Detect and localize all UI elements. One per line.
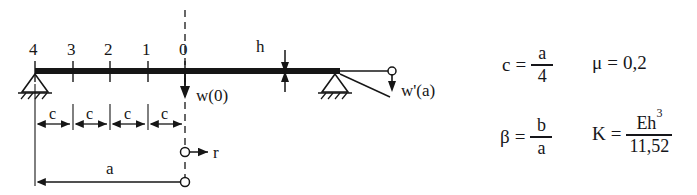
fraction-numerator-a: a [535,44,549,63]
equation-equals-K: = [611,123,622,145]
thickness-label-h: h [256,38,265,55]
fraction-denominator-4: 4 [535,67,550,86]
node-label-0: 0 [179,41,188,58]
equation-equals-beta: = [515,126,526,148]
r-axis-arrow [181,148,209,157]
numerator-exponent-3: 3 [656,106,662,120]
equation-lhs-mu: μ [592,52,602,74]
fraction-Eh3-over-1152: Eh3 11,52 [626,112,672,156]
slope-label-wa: w'(a) [401,82,435,99]
fraction-numerator-b: b [534,116,549,135]
equation-lhs-K: K [592,123,606,145]
equation-plate-stiffness: K = Eh3 11,52 [592,112,672,156]
equation-beta-ratio: β = b a [500,116,552,158]
node-label-4: 4 [29,41,38,58]
fraction-b-over-a: b a [530,116,552,158]
equation-equals-c: = [515,54,526,76]
equation-poisson-ratio: μ = 0,2 [592,52,647,74]
fraction-denominator-a: a [534,139,548,158]
radial-axis-label-r: r [213,144,219,161]
segment-label-c-3: c [124,106,131,122]
equation-segment-length: c = a 4 [502,44,553,86]
segment-label-c-2: c [86,106,93,122]
diagram-canvas [0,0,697,195]
node-label-3: 3 [67,41,76,58]
node-label-1: 1 [142,41,151,58]
equation-lhs-c: c [502,54,510,76]
total-length-label-a: a [106,160,114,177]
a-dimension-line [38,178,190,187]
dimension-extension-lines [35,84,148,186]
equation-equals-mu: = [607,52,618,74]
numerator-base-Eh: Eh [636,113,656,133]
fraction-numerator-Eh3: Eh3 [633,112,665,133]
equation-value-mu: 0,2 [623,52,647,74]
node-label-2: 2 [104,41,113,58]
segment-label-c-1: c [49,106,56,122]
fraction-a-over-4: a 4 [531,44,553,86]
deflection-label-w0: w(0) [196,87,228,104]
beam-bar [35,68,340,74]
figure-root: 4 3 2 1 0 h w(0) w'(a) c c c c r a c = a… [0,0,697,195]
segment-label-c-4: c [161,106,168,122]
fraction-denominator-1152: 11,52 [626,137,672,156]
equation-lhs-beta: β [500,126,510,148]
deflection-arrow-w0 [180,73,190,99]
